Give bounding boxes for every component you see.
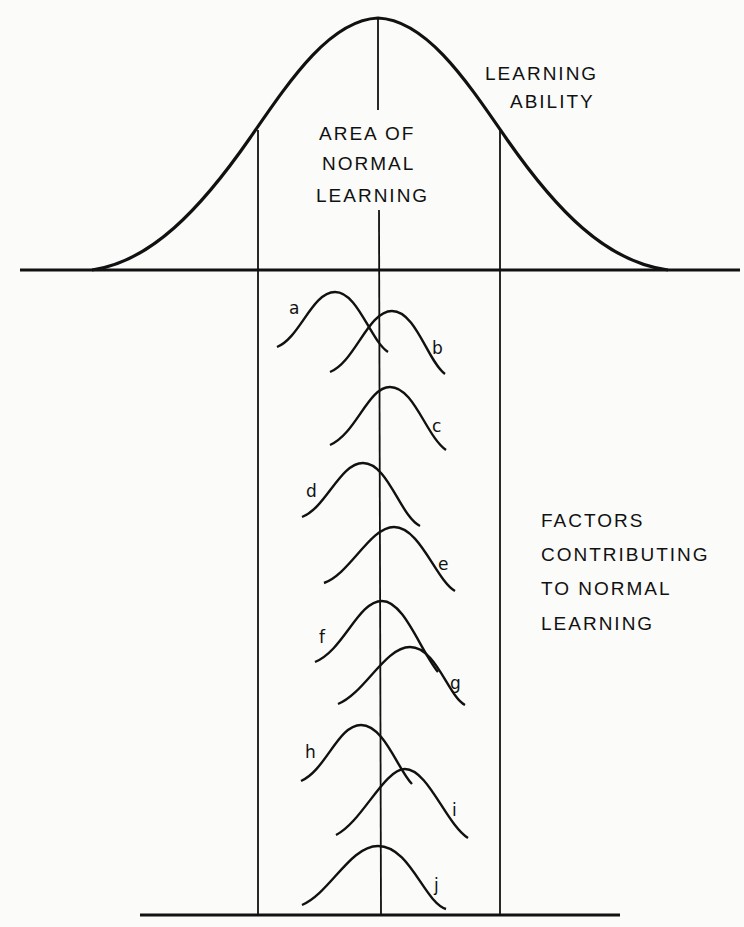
factor-curve-h: [301, 725, 412, 784]
factor-curve-e: [324, 527, 455, 591]
factor-label-f: f: [319, 627, 326, 647]
factor-curve-j: [302, 846, 446, 909]
factors-label-line-4: LEARNING: [541, 613, 654, 634]
factors-label-line-2: CONTRIBUTING: [541, 544, 710, 565]
factor-curve-f: [315, 601, 438, 672]
learning-ability-label-line-1: LEARNING: [485, 63, 598, 84]
factor-label-c: c: [432, 416, 441, 436]
area-label-line-1: AREA OF: [319, 123, 415, 144]
factor-label-h: h: [305, 742, 316, 762]
factor-label-e: e: [438, 554, 448, 574]
factor-label-d: d: [306, 481, 317, 501]
normal-learning-diagram: LEARNING ABILITY AREA OF NORMAL LEARNING…: [0, 0, 744, 927]
factor-label-i: i: [452, 800, 457, 820]
area-label-line-2: NORMAL: [322, 153, 415, 174]
factor-label-g: g: [450, 673, 461, 693]
factor-curve-d: [302, 463, 420, 526]
factor-label-j: j: [433, 875, 439, 895]
factors-label-line-1: FACTORS: [541, 510, 644, 531]
factor-curve-b: [330, 311, 445, 374]
factor-curve-i: [336, 769, 468, 838]
factor-curve-g: [338, 647, 465, 705]
learning-ability-bell-curve: [92, 18, 668, 270]
factor-label-a: a: [289, 298, 299, 318]
area-label-line-3: LEARNING: [316, 185, 429, 206]
learning-ability-label-line-2: ABILITY: [510, 91, 595, 112]
factor-curve-c: [330, 387, 446, 450]
factor-label-b: b: [432, 338, 443, 358]
factors-label-line-3: TO NORMAL: [541, 578, 672, 599]
